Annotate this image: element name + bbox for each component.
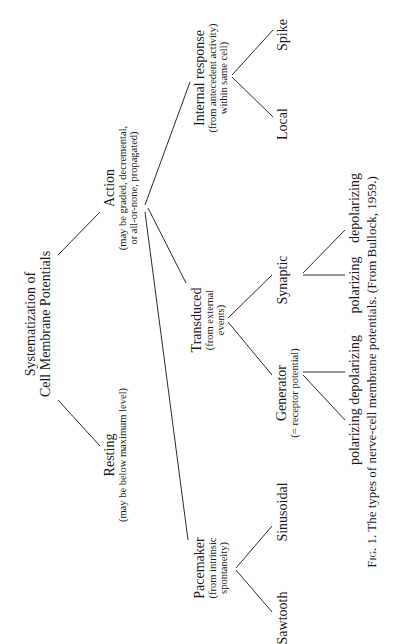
action-label: Action — [103, 126, 117, 250]
transduced-note-2: events) — [215, 288, 226, 353]
internal-response-note-2: within same cell) — [218, 23, 229, 132]
title-line-2: Cell Membrane Potentials — [39, 251, 54, 397]
transduced-label: Transduced — [190, 288, 204, 353]
generator-polarizing-depolarizing: polarizing depolarizing — [347, 335, 363, 465]
edge-internal-local — [232, 77, 273, 117]
pacemaker-label: Pacemaker — [193, 537, 207, 598]
edge-internal-spike — [232, 30, 273, 75]
caption-text: The types of nerve-cell membrane potenti… — [364, 176, 379, 532]
node-transduced: Transduced (from external events) — [190, 288, 226, 353]
edge-title-resting — [58, 400, 100, 446]
pacemaker-note-1: (from intrinsic — [207, 537, 218, 598]
diagram-title: Systematization of Cell Membrane Potenti… — [24, 251, 53, 397]
edge-pacemaker-sinusoidal — [236, 526, 272, 568]
node-pacemaker: Pacemaker (from intrinsic spontaneity) — [193, 537, 229, 598]
node-action: Action (may be graded, decremental, or a… — [103, 126, 139, 250]
figure-number: Fig. 1. — [364, 535, 379, 568]
action-note-2: or all-or-none, propagated) — [128, 126, 139, 250]
node-sinusoidal: Sinusoidal — [275, 482, 291, 541]
edge-title-action — [58, 212, 100, 255]
internal-response-label: Internal response — [193, 23, 207, 132]
edge-pacemaker-sawtooth — [236, 570, 272, 612]
edge-generator-polarizing — [303, 375, 345, 420]
transduced-note-1: (from external — [204, 288, 215, 353]
action-note-1: (may be graded, decremental, — [117, 126, 128, 250]
node-resting: Resting (may be below maximum level) — [103, 388, 128, 522]
figure-caption: Fig. 1. The types of nerve-cell membrane… — [364, 176, 380, 568]
internal-response-note-1: (from antecedent activity) — [207, 23, 218, 132]
node-internal-response: Internal response (from antecedent activ… — [193, 23, 229, 132]
resting-note: (may be below maximum level) — [117, 388, 128, 522]
node-sawtooth: Sawtooth — [275, 592, 291, 644]
edge-action-transduced — [148, 208, 186, 283]
node-local: Local — [275, 108, 291, 140]
generator-note: (= receptor potential) — [289, 348, 300, 437]
pacemaker-note-2: spontaneity) — [218, 537, 229, 598]
synaptic-polarizing: polarizing — [347, 257, 363, 314]
generator-label: Generator — [275, 348, 289, 437]
node-generator: Generator (= receptor potential) — [275, 348, 300, 437]
edge-action-pacemaker — [145, 212, 188, 540]
edge-synaptic-depolarizing — [303, 230, 345, 273]
synaptic-depolarizing: depolarizing — [347, 173, 363, 243]
resting-label: Resting — [103, 388, 117, 522]
node-synaptic: Synaptic — [275, 256, 291, 305]
edge-transduced-generator — [228, 322, 272, 375]
node-spike: Spike — [275, 19, 291, 51]
edge-action-internal — [145, 82, 190, 205]
title-line-1: Systematization of — [24, 251, 39, 397]
edge-transduced-synaptic — [228, 275, 272, 318]
